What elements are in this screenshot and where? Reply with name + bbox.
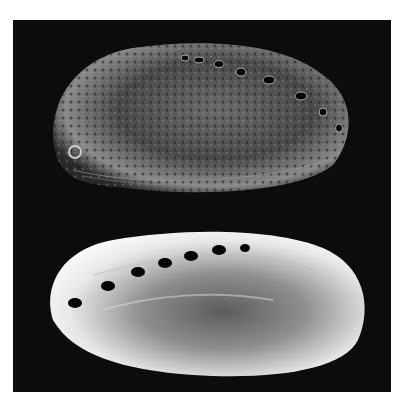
bottom-shell: [50, 232, 365, 376]
abalone-shells-illustration: [13, 20, 391, 392]
photo-frame: [13, 20, 391, 392]
top-shell: [53, 43, 348, 192]
